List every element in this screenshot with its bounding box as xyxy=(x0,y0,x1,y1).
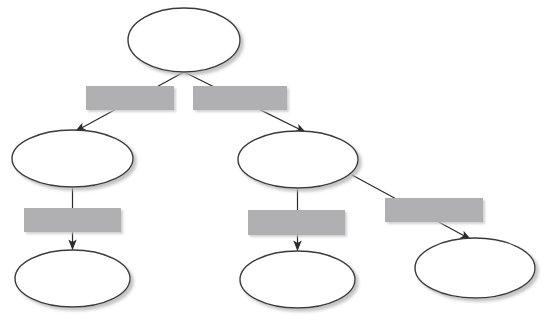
label-box-b2[interactable] xyxy=(193,86,287,110)
node-ellipse xyxy=(15,250,130,307)
node-n1[interactable] xyxy=(128,8,240,72)
label-box-b5[interactable] xyxy=(385,198,483,222)
node-ellipse xyxy=(415,238,535,298)
node-ellipse xyxy=(240,251,355,308)
node-n2[interactable] xyxy=(12,130,133,187)
label-box-rect xyxy=(86,86,174,110)
label-box-rect xyxy=(385,198,483,222)
diagram-svg xyxy=(0,0,551,321)
label-box-rect xyxy=(248,210,345,235)
diagram-canvas xyxy=(0,0,551,321)
node-n6[interactable] xyxy=(415,238,535,298)
node-n4[interactable] xyxy=(15,250,130,307)
node-ellipse xyxy=(12,130,133,187)
label-box-b4[interactable] xyxy=(248,210,345,235)
label-box-b1[interactable] xyxy=(86,86,174,110)
label-box-b3[interactable] xyxy=(24,208,121,232)
node-ellipse xyxy=(128,8,240,72)
node-ellipse xyxy=(238,131,358,188)
label-box-rect xyxy=(24,208,121,232)
label-box-rect xyxy=(193,86,287,110)
nodes-layer xyxy=(12,8,535,308)
node-n5[interactable] xyxy=(240,251,355,308)
node-n3[interactable] xyxy=(238,131,358,188)
